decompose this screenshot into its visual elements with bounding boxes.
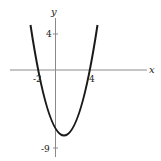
x-axis-label: x (149, 64, 155, 75)
parabola-graph: y x 4 -9 -2 4 (0, 0, 161, 161)
y-tick-label-neg9: -9 (41, 144, 50, 154)
x-tick-label-neg2: -2 (33, 74, 42, 84)
y-tick-label-4: 4 (46, 29, 52, 39)
x-tick-label-4: 4 (89, 74, 95, 84)
y-axis-label: y (50, 6, 57, 17)
